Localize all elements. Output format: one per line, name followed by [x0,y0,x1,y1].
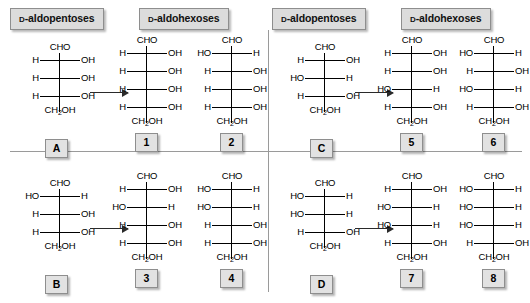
stereocenter-rung: HOH [283,227,367,238]
bond-line [127,243,167,244]
substituent-right: OH [168,66,182,76]
bond-line [305,96,345,97]
stereocenter-rung: HOH [18,55,102,66]
stereocenter-rung: HOH [370,238,454,249]
substituent-left: H [32,55,39,65]
stereocenter-rung: HOH [370,48,454,59]
cho-group: CHO [484,171,505,181]
substituent-right: OH [168,102,182,112]
substituent-right: OH [81,73,95,83]
substituent-left: H [119,220,126,230]
bond-line [212,107,252,108]
stereocenter-rung: HOH [105,238,189,249]
substituent-left: H [297,91,304,101]
substituent-right: OH [81,209,95,219]
substituent-left: HO [377,202,391,212]
substituent-left: H [119,48,126,58]
stereocenter-rung: HOH [452,84,530,95]
structure-label-6: 6 [482,133,505,152]
substituent-left: H [384,184,391,194]
ch2oh-group: CH2OH [132,116,163,127]
bond-line [127,189,167,190]
substituent-left: HO [290,191,304,201]
header-label: -aldopentoses [287,12,357,24]
substituent-right: H [433,220,440,230]
substituent-left: HO [290,209,304,219]
substituent-right: OH [81,55,95,65]
substituent-right: OH [81,91,95,101]
ch2oh-group: CH2OH [45,241,76,252]
substituent-right: OH [253,238,267,248]
header-label: -aldopentoses [25,12,95,24]
stereocenter-rung: HOH [370,220,454,231]
structure-label-1: 1 [135,133,158,152]
stereocenter-rung: HOH [452,66,530,77]
bond-line [127,53,167,54]
substituent-left: H [119,84,126,94]
structure-label-8: 8 [482,269,505,288]
header-chip-aldohexoses-right: D-aldohexoses [401,8,491,30]
bond-line [392,225,432,226]
bond-line [40,60,80,61]
bond-line [392,71,432,72]
substituent-left: HO [377,220,391,230]
bond-line [127,89,167,90]
substituent-right: H [346,209,353,219]
stereocenter-rung: HOH [105,184,189,195]
bond-line [474,89,514,90]
substituent-right: OH [81,227,95,237]
stereocenter-rung: HOH [370,184,454,195]
stereocenter-rung: HOH [105,102,189,113]
substituent-right: OH [168,84,182,94]
stereocenter-rung: HOH [283,55,367,66]
structure-label-5: 5 [400,133,423,152]
bond-line [212,89,252,90]
stereocenter-rung: HOH [18,227,102,238]
bond-line [127,225,167,226]
stereocenter-rung: HOH [370,102,454,113]
substituent-left: H [32,91,39,101]
bond-line [127,107,167,108]
substituent-left: H [297,227,304,237]
substituent-right: OH [346,55,360,65]
stereocenter-rung: HOH [283,209,367,220]
stereocenter-rung: HOH [452,220,530,231]
horizontal-divider [10,151,522,152]
bond-line [392,243,432,244]
stereocenter-rung: HOH [190,102,274,113]
substituent-right: OH [433,102,447,112]
substituent-right: OH [253,220,267,230]
substituent-right: H [515,48,522,58]
structure-label-7: 7 [400,269,423,288]
stereocenter-rung: HOH [370,66,454,77]
substituent-right: H [168,202,175,212]
diagram-canvas: D-aldopentoses D-aldohexoses D-aldopento… [0,0,530,303]
substituent-left: HO [112,202,126,212]
substituent-left: HO [459,184,473,194]
substituent-left: HO [197,48,211,58]
structure-label-b: B [45,275,68,294]
ch2oh-group: CH2OH [217,252,248,263]
cho-group: CHO [137,35,158,45]
stereocenter-rung: HOH [190,184,274,195]
stereocenter-rung: HOH [190,66,274,77]
bond-line [474,53,514,54]
substituent-left: H [204,66,211,76]
stereocenter-rung: HOH [105,202,189,213]
substituent-left: H [32,209,39,219]
bond-line [392,89,432,90]
ch2oh-group: CH2OH [132,252,163,263]
structure-label-3: 3 [135,269,158,288]
bond-line [474,71,514,72]
ch2oh-group: CH2OH [397,116,428,127]
substituent-right: H [253,184,260,194]
stereocenter-rung: HOH [283,191,367,202]
stereocenter-rung: HOH [18,209,102,220]
substituent-left: HO [459,220,473,230]
substituent-left: HO [290,73,304,83]
bond-line [305,232,345,233]
substituent-left: H [466,66,473,76]
cho-group: CHO [50,178,71,188]
substituent-right: OH [346,227,360,237]
stereocenter-rung: HOH [452,102,530,113]
